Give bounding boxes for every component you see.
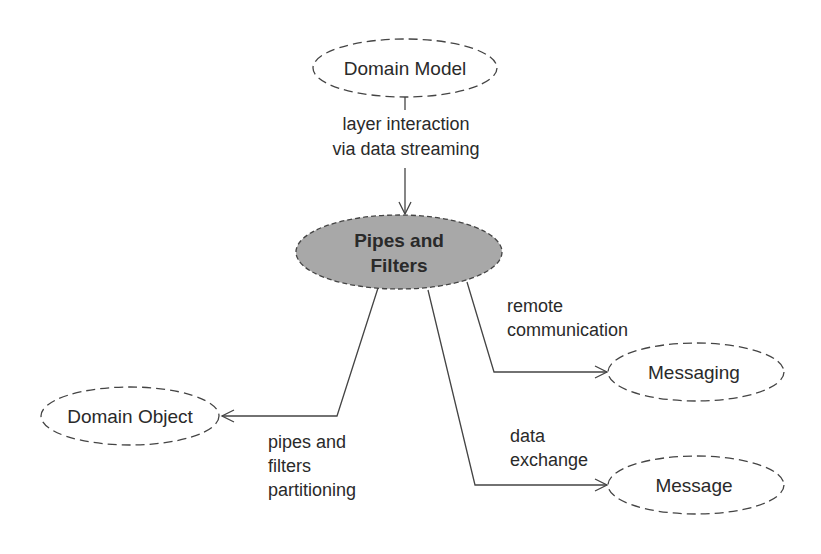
center-ellipse xyxy=(296,215,502,289)
edge-label-line1: data xyxy=(510,426,546,446)
diagram-canvas: Domain Model layer interaction via data … xyxy=(0,0,821,554)
edge-label-line2: filters xyxy=(268,456,311,476)
node-message: Message xyxy=(608,456,784,514)
messaging-label: Messaging xyxy=(648,362,740,383)
edge-label-line2: via data streaming xyxy=(332,139,479,159)
message-label: Message xyxy=(655,475,732,496)
node-messaging: Messaging xyxy=(608,343,784,401)
node-domain-model: Domain Model xyxy=(313,39,497,97)
center-label-line1: Pipes and xyxy=(354,230,444,251)
edge-center-to-messaging: remote communication xyxy=(467,282,628,378)
node-pipes-and-filters: Pipes and Filters xyxy=(296,215,502,289)
edge-label-line3: partitioning xyxy=(268,480,356,500)
node-domain-object: Domain Object xyxy=(41,387,219,445)
center-label-line2: Filters xyxy=(370,255,427,276)
edge-label-line1: pipes and xyxy=(268,432,346,452)
edge-label-line1: remote xyxy=(507,296,563,316)
domain-model-label: Domain Model xyxy=(344,58,467,79)
domain-object-label: Domain Object xyxy=(67,406,193,427)
edge-label-line1: layer interaction xyxy=(342,114,469,134)
edge-line xyxy=(222,288,378,416)
edge-label-line2: communication xyxy=(507,320,628,340)
edge-label-line2: exchange xyxy=(510,450,588,470)
edge-center-to-domain-object: pipes and filters partitioning xyxy=(222,288,378,500)
edge-domain-model-to-center: layer interaction via data streaming xyxy=(332,97,479,214)
